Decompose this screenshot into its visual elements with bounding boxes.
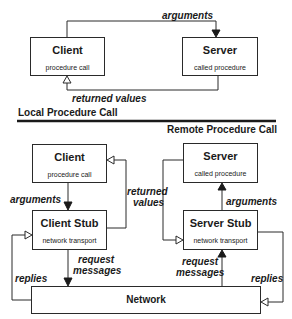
remote-client-subtitle: procedure call [33,171,106,178]
local-arguments-line [67,21,216,37]
network-title: Network [32,294,260,305]
remote-server-returned-line [163,160,183,240]
arrowhead-hollow-icon [107,156,114,164]
arrowhead-filled-icon [212,30,220,37]
local-client-subtitle: procedure call [31,64,104,71]
remote-client-stub-subtitle: network transport [33,237,106,244]
replies-right-line [258,232,283,302]
remote-server-box: Server called procedure [183,143,258,183]
arrowhead-filled-icon [218,183,226,190]
remote-server-request-label-1: request [182,256,218,267]
arrowhead-filled-icon [64,202,72,210]
replies-left-line [12,235,31,300]
local-server-title: Server [183,44,257,56]
remote-server-title: Server [184,150,257,162]
local-server-box: Server called procedure [182,37,258,76]
arrowhead-hollow-icon [261,298,268,306]
arrowhead-filled-icon [218,250,226,257]
replies-right-label: replies [251,273,283,284]
local-server-subtitle: called procedure [183,64,257,71]
remote-client-box: Client procedure call [32,144,107,183]
remote-returned-values-label-2: values [133,197,164,208]
arrowhead-hollow-icon [25,231,32,239]
remote-client-stub-title: Client Stub [33,217,106,229]
replies-left-label: replies [15,273,47,284]
local-client-box: Client procedure call [30,37,105,76]
local-client-title: Client [31,44,104,56]
network-box: Network [31,286,261,314]
remote-client-arguments-label: arguments [10,194,61,205]
remote-server-arguments-label: arguments [226,196,277,207]
remote-client-title: Client [33,151,106,163]
remote-section-label: Remote Procedure Call [167,124,277,135]
remote-client-request-label-1: request [78,254,114,265]
local-returned-line [67,75,218,90]
arrowhead-hollow-icon [63,76,71,83]
remote-client-returned-line [107,160,126,228]
remote-server-stub-title: Server Stub [184,217,257,229]
arrowhead-hollow-icon [176,236,183,244]
local-arguments-label: arguments [162,10,213,21]
arrowhead-filled-icon [64,278,72,286]
remote-server-subtitle: called procedure [184,170,257,177]
remote-client-request-label-2: messages [73,265,121,276]
remote-returned-values-label-1: returned [127,186,168,197]
remote-server-request-label-2: messages [176,267,224,278]
remote-server-stub-box: Server Stub network transport [183,210,258,250]
local-section-label: Local Procedure Call [18,107,117,118]
remote-client-stub-box: Client Stub network transport [32,210,107,250]
local-returned-values-label: returned values [72,93,146,104]
remote-server-stub-subtitle: network transport [184,237,257,244]
